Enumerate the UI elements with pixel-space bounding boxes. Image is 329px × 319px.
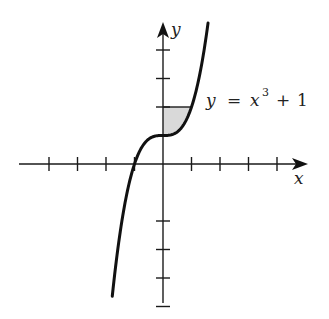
equation-constant: 1 xyxy=(297,90,308,110)
y-axis-label: y xyxy=(170,19,181,39)
equation-exponent: 3 xyxy=(262,86,269,99)
cubic-curve xyxy=(112,23,208,296)
equation-equals: = xyxy=(227,90,241,110)
equation-plus: + xyxy=(276,90,290,110)
x-axis-label: x xyxy=(294,168,304,188)
equation-base: x xyxy=(250,90,260,110)
equation-label: y = x 3 + 1 xyxy=(205,86,308,110)
equation-lhs: y xyxy=(205,90,216,110)
cubic-graph: y x y = x 3 + 1 xyxy=(0,0,329,319)
